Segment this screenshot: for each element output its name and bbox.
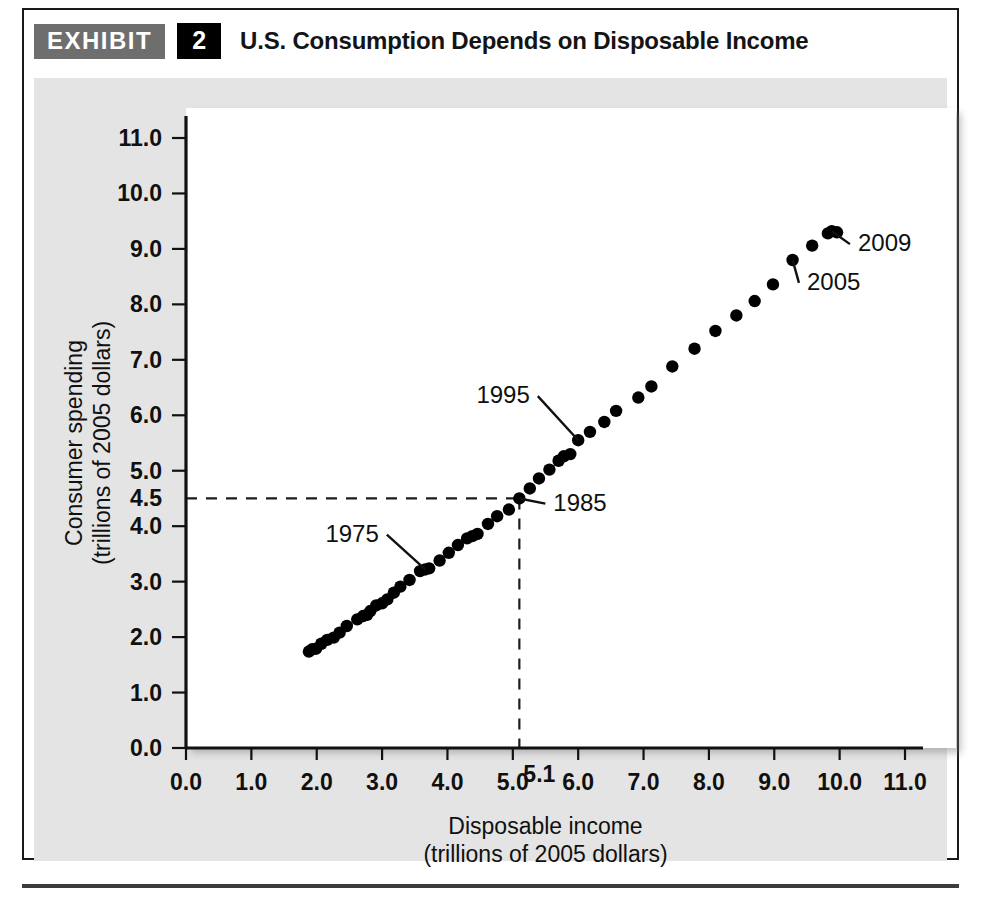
data-point: [709, 325, 721, 337]
annotations-group: 19751985199520052009: [325, 229, 911, 569]
annotation-label: 2009: [858, 229, 911, 256]
data-point: [584, 426, 596, 438]
y-tick-label: 8.0: [130, 291, 162, 317]
x-tick-label: 4.0: [431, 769, 463, 795]
footer-rule: [22, 884, 959, 888]
annotation-label: 1995: [476, 381, 529, 408]
y-tick-label: 5.0: [130, 458, 162, 484]
data-point: [403, 574, 415, 586]
annotation-label: 1985: [553, 489, 606, 516]
exhibit-number-badge: 2: [177, 23, 221, 59]
exhibit-tag: EXHIBIT: [34, 24, 165, 59]
annotation-leader-line: [387, 535, 425, 570]
y-tick-label: 0.0: [130, 735, 162, 761]
data-point: [524, 482, 536, 494]
reference-label-y: 4.5: [130, 485, 162, 511]
data-point: [598, 416, 610, 428]
x-tick-label: 2.0: [301, 769, 333, 795]
y-tick-label: 11.0: [119, 125, 163, 151]
scatter-chart: 0.01.02.03.04.05.06.07.08.09.010.011.00.…: [34, 78, 947, 861]
data-point: [730, 309, 742, 321]
y-tick-label: 2.0: [130, 624, 162, 650]
data-point: [767, 278, 779, 290]
page-title: U.S. Consumption Depends on Disposable I…: [240, 27, 808, 55]
annotation-label: 2005: [807, 268, 860, 295]
y-axis-title: Consumer spending: [61, 340, 87, 546]
y-tick-label: 4.0: [130, 513, 162, 539]
reference-label-x: 5.1: [523, 761, 555, 787]
x-tick-label: 7.0: [628, 769, 660, 795]
data-point: [533, 472, 545, 484]
x-tick-label: 6.0: [562, 769, 594, 795]
data-point: [564, 448, 576, 460]
data-point: [632, 391, 644, 403]
x-tick-label: 11.0: [883, 769, 927, 795]
data-point: [645, 380, 657, 392]
data-point: [341, 620, 353, 632]
y-tick-label: 7.0: [130, 347, 162, 373]
x-tick-label: 8.0: [693, 769, 725, 795]
y-tick-label: 1.0: [130, 680, 162, 706]
data-points-group: [303, 225, 844, 658]
figure-panel: 0.01.02.03.04.05.06.07.08.09.010.011.00.…: [34, 78, 947, 861]
x-tick-label: 3.0: [366, 769, 398, 795]
x-axis-units: (trillions of 2005 dollars): [423, 841, 667, 867]
x-tick-label: 9.0: [758, 769, 790, 795]
data-point: [471, 528, 483, 540]
data-point: [543, 463, 555, 475]
data-point: [806, 239, 818, 251]
data-point: [748, 295, 760, 307]
y-tick-label: 9.0: [130, 236, 162, 262]
data-point: [503, 503, 515, 515]
data-point: [610, 405, 622, 417]
exhibit-header: EXHIBIT 2 U.S. Consumption Depends on Di…: [34, 22, 809, 60]
x-tick-label: 1.0: [235, 769, 267, 795]
annotation-label: 1975: [325, 520, 378, 547]
data-point: [491, 510, 503, 522]
y-tick-label: 3.0: [130, 569, 162, 595]
x-tick-label: 0.0: [170, 769, 202, 795]
axes-group: [172, 116, 923, 760]
x-axis-title: Disposable income: [448, 813, 642, 839]
y-tick-label: 10.0: [117, 180, 162, 206]
y-axis-units: (trillions of 2005 dollars): [89, 321, 115, 565]
data-point: [688, 343, 700, 355]
data-point: [666, 360, 678, 372]
x-tick-label: 10.0: [817, 769, 862, 795]
tick-labels-group: 0.01.02.03.04.05.06.07.08.09.010.011.00.…: [117, 125, 927, 795]
y-tick-label: 6.0: [130, 402, 162, 428]
annotation-leader-line: [538, 396, 578, 440]
